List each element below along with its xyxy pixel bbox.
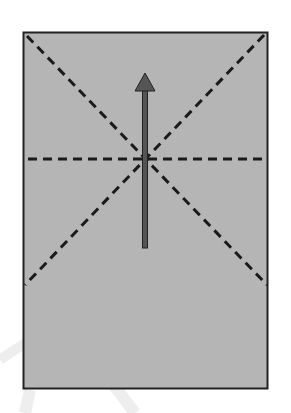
fold-diagram [0,0,291,413]
watermark-arc [25,390,30,413]
